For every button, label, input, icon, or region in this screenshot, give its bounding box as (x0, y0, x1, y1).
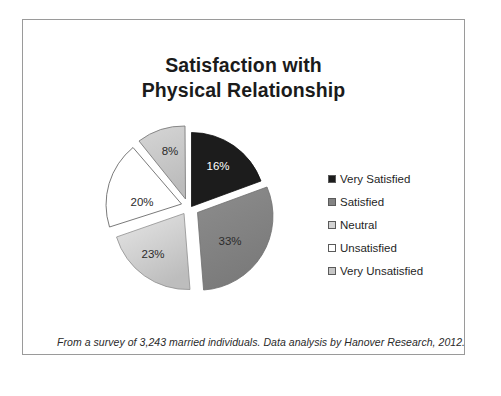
legend-label: Unsatisfied (340, 242, 397, 254)
legend-label: Very Unsatisfied (340, 265, 423, 277)
chart-frame: Satisfaction with Physical Relationship (22, 19, 465, 355)
chart-legend: Very Satisfied Satisfied Neutral Unsatis… (328, 167, 478, 282)
legend-item-very-satisfied[interactable]: Very Satisfied (328, 167, 478, 190)
title-line-2: Physical Relationship (23, 78, 464, 103)
legend-swatch-icon (328, 175, 336, 183)
legend-item-satisfied[interactable]: Satisfied (328, 190, 478, 213)
legend-swatch-icon (328, 198, 336, 206)
legend-swatch-icon (328, 221, 336, 229)
pie-value-label-satisfied: 33% (218, 235, 241, 247)
legend-item-unsatisfied[interactable]: Unsatisfied (328, 236, 478, 259)
legend-swatch-icon (328, 244, 336, 252)
chart-caption: From a survey of 3,243 married individua… (57, 336, 477, 348)
legend-label: Very Satisfied (340, 173, 410, 185)
legend-swatch-icon (328, 267, 336, 275)
legend-label: Satisfied (340, 196, 384, 208)
pie-chart: 16% 33% 23% 20% 8% (53, 110, 323, 305)
pie-value-label-neutral: 23% (141, 248, 164, 260)
title-line-1: Satisfaction with (23, 53, 464, 78)
pie-value-label-very-satisfied: 16% (206, 160, 229, 172)
pie-chart-svg: 16% 33% 23% 20% 8% (53, 110, 323, 305)
pie-value-label-very-unsatisfied: 8% (162, 145, 179, 157)
legend-label: Neutral (340, 219, 377, 231)
pie-value-label-unsatisfied: 20% (130, 196, 153, 208)
legend-item-neutral[interactable]: Neutral (328, 213, 478, 236)
legend-item-very-unsatisfied[interactable]: Very Unsatisfied (328, 259, 478, 282)
page-title: Satisfaction with Physical Relationship (23, 53, 464, 103)
